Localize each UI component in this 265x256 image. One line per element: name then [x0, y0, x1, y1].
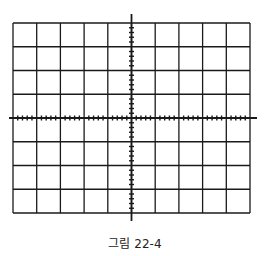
oscilloscope-graticule [0, 0, 265, 256]
figure-caption: 그림 22-4 [0, 234, 265, 251]
